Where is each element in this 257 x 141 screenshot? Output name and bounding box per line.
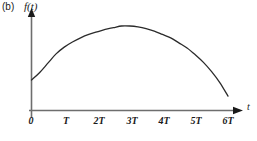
data-curve <box>32 26 229 96</box>
x-tick-label-6: 6T <box>222 115 233 127</box>
x-tick-label-2: 2T <box>93 115 104 127</box>
x-tick-label-4: 4T <box>158 115 169 127</box>
axes-group <box>28 8 243 118</box>
x-tick-label-3: 3T <box>126 115 137 127</box>
y-axis-arrow-icon <box>28 8 35 17</box>
figure-panel-b: (b) f(t) t 0 T 2T 3T 4T 5T 6T <box>0 0 257 141</box>
x-axis-arrow-icon <box>233 107 243 115</box>
x-tick-label-1: T <box>63 115 69 127</box>
x-tick-label-0: 0 <box>29 115 34 127</box>
x-tick-label-5: 5T <box>190 115 201 127</box>
